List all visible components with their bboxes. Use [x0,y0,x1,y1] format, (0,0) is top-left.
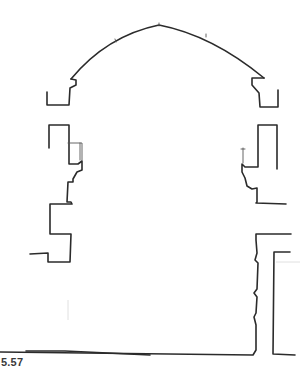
right-wall-lower [0,234,291,355]
construction-lines [68,262,300,320]
right-bracket-detail [241,148,245,163]
figure-label: 5.57 [1,356,23,368]
left-springing [47,79,76,105]
dome-arc [71,25,264,79]
right-wall-upper [242,125,286,204]
section-sketch [0,0,307,373]
left-wall-upper [30,125,82,262]
right-springing [252,78,278,107]
right-inner-jamb [273,252,295,355]
